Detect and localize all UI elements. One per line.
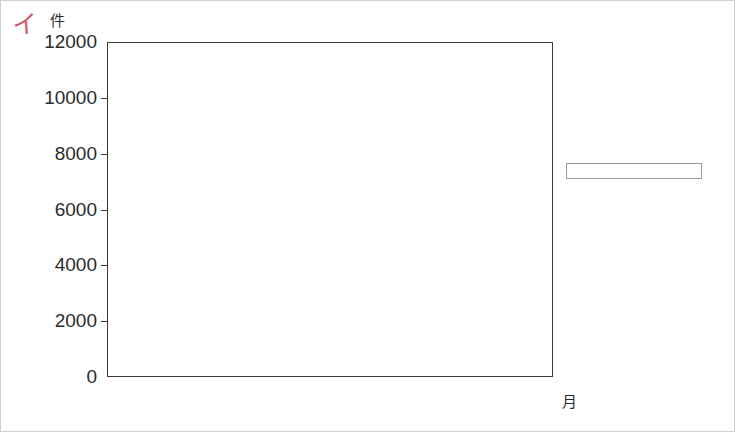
y-axis-tick-label: 4000: [29, 255, 97, 274]
y-axis-tick-label: 12000: [29, 32, 97, 51]
y-axis-tick-label: 10000: [29, 88, 97, 107]
y-axis-tick-label: 0: [29, 367, 97, 386]
legend: [566, 163, 702, 179]
y-axis-tick: [101, 210, 108, 211]
bars-layer: [107, 42, 553, 377]
x-axis-unit-label: 月: [562, 395, 577, 410]
y-axis-tick: [101, 321, 108, 322]
y-axis-tick-label: 8000: [29, 144, 97, 163]
y-axis-tick: [101, 154, 108, 155]
y-axis-tick-label: 6000: [29, 200, 97, 219]
x-axis-labels: [107, 381, 553, 409]
y-axis-tick-label: 2000: [29, 311, 97, 330]
y-axis-labels: 120001000080006000400020000: [25, 0, 97, 432]
y-axis-tick: [101, 98, 108, 99]
y-axis-tick: [101, 265, 108, 266]
